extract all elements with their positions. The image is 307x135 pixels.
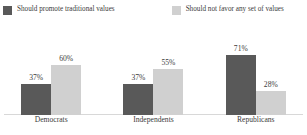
- bar-column: 60%: [51, 20, 81, 115]
- legend-item-label: Should not favor any set of values: [186, 6, 284, 13]
- bar-democrats-not-favor-any-values: [51, 65, 81, 115]
- bar-column: 28%: [256, 20, 286, 115]
- legend-swatch-icon: [172, 6, 181, 15]
- bar-value-label: 37%: [21, 74, 51, 82]
- plot-area: 37% 60% 37% 55%: [0, 20, 307, 115]
- category-axis-labels: Democrats Independents Republicans: [0, 116, 307, 135]
- grouped-bar-chart: Should promote traditional values Should…: [0, 0, 307, 135]
- legend-item-not-favor-any-values: Should not favor any set of values: [172, 6, 284, 15]
- legend-swatch-icon: [3, 6, 12, 15]
- bar-group-republicans: 71% 28%: [226, 20, 286, 115]
- bar-value-label: 28%: [256, 81, 286, 89]
- category-label-democrats: Democrats: [21, 116, 81, 124]
- bar-column: 71%: [226, 20, 256, 115]
- bar-value-label: 71%: [226, 45, 256, 53]
- bar-group-independents: 37% 55%: [123, 20, 183, 115]
- bar-value-label: 55%: [153, 59, 183, 67]
- category-label-independents: Independents: [123, 116, 183, 124]
- bar-column: 37%: [21, 20, 51, 115]
- bar-column: 37%: [123, 20, 153, 115]
- bar-column: 55%: [153, 20, 183, 115]
- bar-groups: 37% 60% 37% 55%: [0, 20, 307, 115]
- bar-republicans-not-favor-any-values: [256, 91, 286, 115]
- bar-republicans-promote-traditional-values: [226, 55, 256, 115]
- category-label-republicans: Republicans: [226, 116, 286, 124]
- bar-independents-not-favor-any-values: [153, 69, 183, 115]
- legend-item-promote-traditional-values: Should promote traditional values: [3, 6, 115, 15]
- chart-legend: Should promote traditional values Should…: [0, 0, 307, 20]
- bar-democrats-promote-traditional-values: [21, 84, 51, 115]
- bar-value-label: 37%: [123, 74, 153, 82]
- bar-group-democrats: 37% 60%: [21, 20, 81, 115]
- bar-independents-promote-traditional-values: [123, 84, 153, 115]
- legend-item-label: Should promote traditional values: [17, 6, 115, 13]
- bar-value-label: 60%: [51, 55, 81, 63]
